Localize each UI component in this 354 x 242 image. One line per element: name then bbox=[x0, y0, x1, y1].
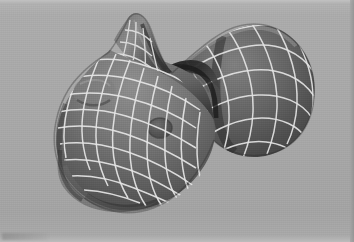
scan-top-edge bbox=[0, 0, 354, 4]
scan-right-edge bbox=[350, 0, 354, 242]
surface-render-svg bbox=[0, 0, 354, 242]
scan-corner-smudge bbox=[2, 233, 48, 240]
figure-panel bbox=[0, 0, 354, 242]
scan-bottom-edge bbox=[0, 236, 354, 242]
surface-render bbox=[0, 0, 354, 242]
